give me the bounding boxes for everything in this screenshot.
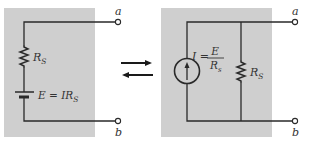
left-terminal-a-label: a	[115, 5, 122, 18]
left-arrow-head-icon	[122, 72, 129, 78]
right-terminal-a-icon	[292, 19, 297, 24]
left-panel-background	[4, 8, 95, 137]
conversion-arrows	[121, 60, 153, 78]
left-terminal-a-icon	[115, 19, 120, 24]
current-source-label: I =	[191, 50, 209, 63]
right-terminal-b-label: b	[292, 126, 299, 139]
source-conversion-diagram: a b RS E = IRS a b I = E Rs RS	[0, 0, 315, 152]
left-terminal-b-label: b	[115, 126, 122, 139]
right-terminal-a-label: a	[292, 5, 299, 18]
right-circuit: a b I = E Rs RS	[161, 5, 299, 139]
left-circuit: a b RS E = IRS	[4, 5, 122, 139]
left-terminal-b-icon	[115, 118, 120, 123]
fraction-numerator: E	[210, 45, 219, 57]
right-arrow-head-icon	[145, 60, 152, 66]
right-terminal-b-icon	[292, 118, 297, 123]
